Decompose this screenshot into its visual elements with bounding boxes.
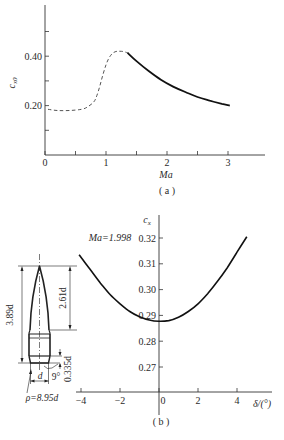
x-tick-label: 3 (226, 157, 231, 168)
chart-a-solid-curve (127, 53, 229, 106)
chart-b-curve (79, 237, 247, 322)
chart-a-x-label: Ma (158, 169, 172, 180)
y-tick-label: 0.27 (139, 362, 157, 373)
x-tick-label: 0 (43, 157, 48, 168)
x-tick-label: −2 (115, 395, 126, 406)
x-tick-label: 4 (235, 395, 240, 406)
label-boattail-angle: 9° (52, 372, 61, 382)
y-tick-label: 0.28 (139, 336, 157, 347)
chart-a-dashed-curve (48, 51, 127, 110)
arrow-head (59, 352, 62, 367)
y-tick-label: 0.30 (139, 284, 157, 295)
x-tick-label: 2 (196, 395, 201, 406)
projectile-diagram: 3.89d 2.61d 0.335d d 9° ρ=8.95d (5, 254, 77, 403)
chart-b-x-label: δ/(°) (253, 398, 272, 410)
x-tick-label: 0 (161, 395, 166, 406)
y-tick-label: 0.32 (139, 233, 157, 244)
label-total-length: 3.89d (5, 304, 15, 326)
chart-a-cx0-vs-mach: 0123 0.200.40 cx0 Ma ( a ) (6, 5, 265, 197)
x-tick-label: 1 (104, 157, 109, 168)
chart-b-x-ticks: −4−2024 (76, 388, 240, 406)
chart-b-caption: ( b ) (153, 416, 170, 428)
chart-b-annotation-mach: Ma=1.998 (88, 232, 132, 243)
label-nose-length: 2.61d (58, 287, 68, 309)
x-tick-label: 2 (165, 157, 170, 168)
chart-b-y-label: cx (143, 214, 151, 227)
y-tick-label: 0.31 (139, 258, 157, 269)
y-tick-label: 0.40 (25, 51, 43, 62)
dim-boattail-angle-arc (44, 366, 52, 369)
label-ogive-radius: ρ=8.95d (25, 393, 59, 403)
chart-a-y-label: cx0 (6, 77, 19, 89)
angle-leader (52, 364, 58, 368)
chart-a-x-ticks: 0123 (43, 151, 231, 168)
label-boattail-length: 0.335d (63, 356, 73, 382)
x-tick-label: −4 (76, 395, 87, 406)
chart-b-cx-vs-delta: −4−2024 0.270.280.290.300.310.32 cx δ/(°… (76, 214, 272, 428)
y-tick-label: 0.20 (25, 100, 43, 111)
chart-a-caption: ( a ) (159, 185, 175, 197)
label-diameter: d (38, 371, 43, 381)
figure: 0123 0.200.40 cx0 Ma ( a ) −4−2024 0.270… (0, 0, 284, 440)
